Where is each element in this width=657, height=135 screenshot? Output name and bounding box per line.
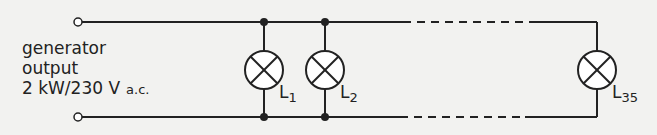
lamp-label-35: L35 (612, 82, 638, 105)
generator-line1: generator (22, 38, 149, 58)
generator-ac: a.c. (126, 82, 149, 97)
generator-label: generator output 2 kW/230 Va.c. (22, 38, 149, 100)
circuit-diagram: generator output 2 kW/230 Va.c. L1 L2 L3… (0, 0, 657, 135)
generator-line2: output (22, 58, 149, 78)
lamp-label-2: L2 (340, 82, 358, 105)
lamp-icons (245, 51, 616, 89)
generator-rating: 2 kW/230 V (22, 78, 120, 98)
lamp-label-1: L1 (279, 82, 297, 105)
